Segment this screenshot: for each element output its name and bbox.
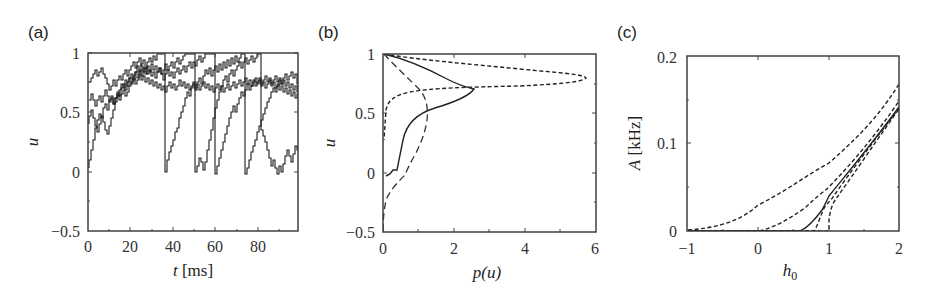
panel-b-ticks xyxy=(383,54,596,232)
curve-solid xyxy=(384,54,474,176)
panel-c-xtick-0: 0 xyxy=(754,240,762,257)
panel-c-ylabel: A [kHz] xyxy=(625,116,644,171)
panel-b-ytick-0.5: 0.5 xyxy=(355,105,375,122)
panel-b-xtick-6: 6 xyxy=(591,240,599,257)
trace-2 xyxy=(89,54,299,174)
panel-c-curves xyxy=(688,84,899,231)
curve-narrow-short-dashed xyxy=(384,54,586,140)
panel-a-ytick-neg0.5: −0.5 xyxy=(51,223,80,240)
panel-b-label: (b) xyxy=(318,23,339,42)
panel-c-xtick-2: 2 xyxy=(895,240,903,257)
panel-b: (b) 1 0.5 0 −0.5 0 2 4 6 p(u) u xyxy=(318,23,599,282)
panel-c-frame xyxy=(687,56,899,231)
figure: (a) 1 0.5 0 −0.5 0 20 40 xyxy=(0,0,929,302)
panel-a-traces xyxy=(89,54,299,174)
curve-lowest-noise xyxy=(688,109,899,231)
panel-b-ytick-neg0.5: −0.5 xyxy=(346,224,375,241)
trace-1 xyxy=(89,54,299,174)
panel-b-frame xyxy=(383,54,596,232)
panel-b-ytick-0: 0 xyxy=(367,165,375,182)
panel-c-ytick-0: 0 xyxy=(669,223,677,240)
panel-c: (c) 0.2 0.1 0 −1 0 1 2 h0 A [kHz] xyxy=(617,23,903,283)
panel-a-xlabel: t [ms] xyxy=(173,261,213,280)
panel-a-xtick-20: 20 xyxy=(122,238,138,255)
trace-3 xyxy=(89,54,299,174)
panel-a-ytick-1: 1 xyxy=(72,45,80,62)
panel-b-xtick-4: 4 xyxy=(521,240,529,257)
curve-highest-noise xyxy=(688,84,899,230)
panel-c-xlabel: h0 xyxy=(783,261,798,283)
panel-a-xtick-0: 0 xyxy=(84,238,92,255)
panel-c-xtick-1: 1 xyxy=(825,240,833,257)
panel-a-ytick-0: 0 xyxy=(72,164,80,181)
panel-c-ytick-0.1: 0.1 xyxy=(657,135,677,152)
panel-b-ylabel: u xyxy=(320,139,339,148)
panel-b-xtick-0: 0 xyxy=(379,240,387,257)
panel-c-xtick-neg1: −1 xyxy=(678,240,695,257)
panel-a-ytick-0.5: 0.5 xyxy=(60,104,80,121)
panel-a-xtick-80: 80 xyxy=(250,238,266,255)
panel-a-xtick-40: 40 xyxy=(165,238,181,255)
panel-a-label: (a) xyxy=(28,23,49,42)
panel-c-label: (c) xyxy=(617,23,637,42)
panel-b-curves xyxy=(383,54,586,232)
panel-a-ylabel: u xyxy=(23,138,42,147)
panel-b-xlabel: p(u) xyxy=(472,263,502,282)
panel-b-ytick-1: 1 xyxy=(367,46,375,63)
panel-a: (a) 1 0.5 0 −0.5 0 20 40 xyxy=(23,23,299,280)
curve-medium-noise xyxy=(688,101,899,231)
panel-c-ticks xyxy=(687,56,899,231)
panel-b-xtick-2: 2 xyxy=(450,240,458,257)
panel-c-ytick-0.2: 0.2 xyxy=(657,49,677,66)
panel-a-xtick-60: 60 xyxy=(207,238,223,255)
curve-wide-long-dashed xyxy=(383,54,427,232)
